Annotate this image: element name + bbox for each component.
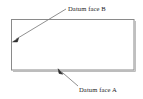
drawing-canvas: Datum face B Datum face A — [0, 0, 143, 99]
datum-b-label: Datum face B — [68, 5, 106, 12]
technical-drawing: Datum face B Datum face A — [0, 0, 143, 99]
datum-a-label: Datum face A — [79, 86, 117, 93]
rectangular-part-outline — [12, 20, 135, 71]
